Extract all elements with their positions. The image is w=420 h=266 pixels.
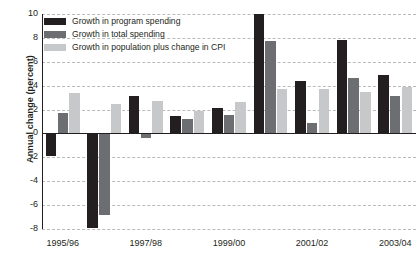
- bar: [129, 96, 140, 134]
- x-tick-label: 2003/04: [360, 238, 420, 248]
- zero-axis-line: [42, 133, 416, 134]
- bar: [307, 123, 318, 133]
- legend-label: Growth in total spending: [72, 30, 165, 39]
- bar-group: [250, 14, 292, 229]
- y-tick-label: 10: [4, 9, 38, 18]
- bar: [99, 133, 110, 214]
- legend-item: Growth in program spending: [44, 15, 225, 27]
- legend-item: Growth in population plus change in CPI: [44, 41, 225, 53]
- bar: [87, 133, 98, 227]
- legend-swatch-icon: [44, 31, 66, 38]
- x-tick-label: 1999/00: [194, 238, 264, 248]
- legend-item: Growth in total spending: [44, 28, 225, 40]
- bar-group: [333, 14, 375, 229]
- y-tick-label: -6: [4, 200, 38, 209]
- bar: [295, 81, 306, 134]
- bar: [194, 111, 205, 133]
- bar: [254, 14, 265, 133]
- y-tick-label: -8: [4, 224, 38, 233]
- bar: [277, 89, 288, 133]
- bar: [69, 93, 80, 133]
- bar: [235, 102, 246, 134]
- gridline: [42, 229, 416, 230]
- x-tick-label: 1995/96: [28, 238, 98, 248]
- bar-chart: Annual change (percent) 1086420-2-4-6-8 …: [0, 0, 420, 266]
- bar-group: [291, 14, 333, 229]
- bar: [402, 87, 413, 133]
- y-tick-label: 8: [4, 33, 38, 42]
- bar: [224, 115, 235, 134]
- bar: [170, 116, 181, 133]
- bar: [46, 133, 57, 156]
- bar: [111, 104, 122, 134]
- legend-label: Growth in population plus change in CPI: [72, 43, 225, 52]
- y-tick-label: 4: [4, 81, 38, 90]
- legend-swatch-icon: [44, 44, 66, 51]
- y-tick-label: 0: [4, 128, 38, 137]
- bar: [378, 75, 389, 134]
- x-tick-label: 2001/02: [277, 238, 347, 248]
- bar: [212, 108, 223, 134]
- bar: [360, 92, 371, 134]
- bar: [337, 40, 348, 133]
- bar-group: [374, 14, 416, 229]
- y-tick-label: -4: [4, 176, 38, 185]
- bar: [152, 101, 163, 134]
- bar: [390, 96, 401, 133]
- x-tick-label: 1997/98: [111, 238, 181, 248]
- bar: [265, 41, 276, 133]
- y-tick-label: 6: [4, 57, 38, 66]
- legend-label: Growth in program spending: [72, 17, 180, 26]
- chart-legend: Growth in program spendingGrowth in tota…: [44, 15, 225, 54]
- y-tick-label: -2: [4, 152, 38, 161]
- y-tick-label: 2: [4, 105, 38, 114]
- legend-swatch-icon: [44, 18, 66, 25]
- bar: [58, 113, 69, 133]
- bar: [319, 89, 330, 133]
- bar: [182, 119, 193, 133]
- y-axis-line: [42, 14, 43, 229]
- bar: [348, 78, 359, 134]
